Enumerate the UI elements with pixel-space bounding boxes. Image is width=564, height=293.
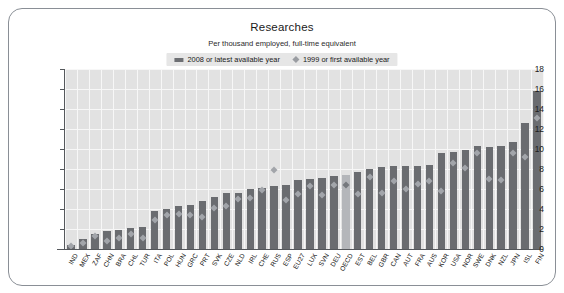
bar-nzl[interactable] xyxy=(497,146,504,249)
bar-prt[interactable] xyxy=(199,201,206,249)
gridline-vertical xyxy=(77,69,78,249)
bar-jpn[interactable] xyxy=(509,142,516,249)
x-axis-label-che: CHE xyxy=(257,252,270,268)
x-axis-label-nzl: NZL xyxy=(497,252,509,267)
bar-est[interactable] xyxy=(354,172,361,249)
y-axis-tick-label: 6 xyxy=(539,184,544,194)
bar-svn[interactable] xyxy=(318,178,325,249)
gridline-vertical xyxy=(483,69,484,249)
y-axis-tick-label: 14 xyxy=(535,104,544,114)
gridline-vertical xyxy=(268,69,269,249)
x-axis-label-est: EST xyxy=(353,252,366,267)
x-axis-label-ita: ITA xyxy=(152,252,163,264)
y-axis-tick xyxy=(60,189,64,190)
x-axis-label-kor: KOR xyxy=(436,252,449,268)
x-axis-label-lux: LUX xyxy=(306,252,319,267)
x-axis-label-mex: MEX xyxy=(78,252,91,268)
gridline-vertical xyxy=(113,69,114,249)
x-axis-label-isl: ISL xyxy=(522,252,533,264)
x-axis-label-bra: BRA xyxy=(114,252,127,268)
bar-swe[interactable] xyxy=(474,146,481,249)
bar-aut[interactable] xyxy=(402,166,409,249)
x-axis-label-cze: CZE xyxy=(222,252,235,267)
marker-rus[interactable] xyxy=(271,166,278,173)
gridline-vertical xyxy=(89,69,90,249)
x-axis-label-chn: CHN xyxy=(102,252,115,268)
gridline-vertical xyxy=(125,69,126,249)
bar-usa[interactable] xyxy=(450,152,457,249)
y-axis-tick xyxy=(60,149,64,150)
gridline-vertical xyxy=(328,69,329,249)
gridline-vertical xyxy=(173,69,174,249)
gridline-vertical xyxy=(447,69,448,249)
gridline-vertical xyxy=(507,69,508,249)
y-axis-tick-label: 12 xyxy=(535,124,544,134)
y-axis-tick xyxy=(60,129,64,130)
bar-che[interactable] xyxy=(258,188,265,249)
x-axis-label-pol: POL xyxy=(162,252,175,267)
gridline-vertical xyxy=(161,69,162,249)
chart-card: Researches Per thousand employed, full-t… xyxy=(8,8,556,286)
x-axis-label-tur: TUR xyxy=(138,252,151,268)
x-axis xyxy=(57,249,543,250)
gridline-vertical xyxy=(531,69,532,249)
bar-kor[interactable] xyxy=(438,153,445,249)
gridline-vertical xyxy=(208,69,209,249)
bar-cze[interactable] xyxy=(223,193,230,249)
gridline-vertical xyxy=(304,69,305,249)
gridline-vertical xyxy=(256,69,257,249)
bar-rus[interactable] xyxy=(270,186,277,249)
y-axis-tick-label: 10 xyxy=(535,144,544,154)
bar-bel[interactable] xyxy=(366,169,373,249)
gridline-vertical xyxy=(412,69,413,249)
gridline-vertical xyxy=(495,69,496,249)
gridline-vertical xyxy=(316,69,317,249)
gridline-vertical xyxy=(196,69,197,249)
gridline-vertical xyxy=(352,69,353,249)
gridline-vertical xyxy=(519,69,520,249)
plot-area xyxy=(65,69,543,249)
gridline-vertical xyxy=(340,69,341,249)
gridline-vertical xyxy=(364,69,365,249)
bar-dnk[interactable] xyxy=(486,147,493,249)
gridline-vertical xyxy=(137,69,138,249)
bar-esp[interactable] xyxy=(282,185,289,249)
y-axis-tick-label: 4 xyxy=(539,204,544,214)
gridline-vertical xyxy=(543,69,544,249)
x-axis-label-svn: SVN xyxy=(317,252,330,268)
x-axis-label-chl: CHL xyxy=(126,252,139,267)
x-axis-label-rus: RUS xyxy=(269,252,282,268)
y-axis-tick xyxy=(60,229,64,230)
y-axis-tick xyxy=(60,209,64,210)
x-axis-label-can: CAN xyxy=(389,252,402,268)
y-axis-tick-label: 8 xyxy=(539,164,544,174)
y-axis-tick xyxy=(60,109,64,110)
gridline-vertical xyxy=(232,69,233,249)
gridline-vertical xyxy=(376,69,377,249)
bar-fra[interactable] xyxy=(414,166,421,249)
gridline-vertical xyxy=(435,69,436,249)
y-axis-tick-label: 18 xyxy=(535,64,544,74)
gridline-vertical xyxy=(65,69,66,249)
x-axis-label-svk: SVK xyxy=(210,252,223,267)
gridline-vertical xyxy=(292,69,293,249)
x-axis-label-gbr: GBR xyxy=(377,252,390,268)
y-axis-tick-label: 2 xyxy=(539,224,544,234)
y-axis xyxy=(57,69,65,249)
bar-gbr[interactable] xyxy=(378,167,385,249)
gridline-vertical xyxy=(400,69,401,249)
x-axis-label-fin: FIN xyxy=(534,252,546,265)
x-axis-label-jpn: JPN xyxy=(509,252,521,267)
bar-isl[interactable] xyxy=(521,123,528,249)
gridline-vertical xyxy=(459,69,460,249)
gridline-vertical xyxy=(185,69,186,249)
gridline-vertical xyxy=(424,69,425,249)
x-axis-label-prt: PRT xyxy=(198,252,211,267)
gridline-vertical xyxy=(388,69,389,249)
x-axis-label-usa: USA xyxy=(449,252,462,268)
gridline-vertical xyxy=(471,69,472,249)
x-axis-label-aut: AUT xyxy=(401,252,414,267)
y-axis-tick xyxy=(60,69,64,70)
y-axis-tick xyxy=(60,89,64,90)
gridline-vertical xyxy=(280,69,281,249)
